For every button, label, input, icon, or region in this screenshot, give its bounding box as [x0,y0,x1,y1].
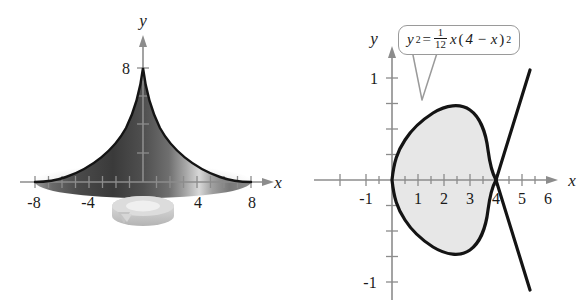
right-xtick-label-2: 2 [440,190,448,207]
figure-container: x y -8 -4 4 8 8 [0,0,588,304]
left-xtick-label-4: 4 [194,194,202,211]
equation-callout: y2 = 1 12 x(4 − x)2 [398,25,520,55]
left-panel-solid-of-revolution: x y -8 -4 4 8 8 [0,0,294,304]
right-xtick-label-6: 6 [544,190,552,207]
eq-paren-open: ( [459,32,464,47]
eq-fraction: 1 12 [434,27,447,50]
left-xtick-label-neg8: -8 [27,194,40,211]
left-x-axis-label: x [273,173,282,192]
right-xtick-label-5: 5 [518,190,526,207]
right-curve-upper-branch [496,70,530,180]
right-xtick-label-3: 3 [466,190,474,207]
left-y-axis-arrow [139,35,147,47]
right-ytick-label-1: 1 [370,70,378,87]
left-plot-svg: x y -8 -4 4 8 8 [0,0,294,304]
eq-equals: = [423,32,431,47]
left-xtick-label-8: 8 [248,194,256,211]
eq-factor-x: x [450,32,457,47]
right-xtick-label-1: 1 [414,190,422,207]
right-ytick-label-neg1: -1 [363,274,376,291]
right-y-axis-arrow [388,46,396,58]
rotation-arrow-icon [112,196,174,226]
right-xtick-label-neg1: -1 [359,190,372,207]
eq-paren-inner: 4 − x [466,32,498,47]
right-y-axis-label: y [368,29,378,48]
left-y-axis-label: y [137,11,147,30]
right-x-axis-label: x [567,171,576,190]
right-panel-loop-region: x y -1 1 2 3 4 5 6 1 -1 y2 = 1 12 x(4 − [294,0,588,304]
eq-fraction-denominator: 12 [434,38,447,50]
callout-pointer-tail [412,50,438,100]
right-xtick-label-4: 4 [492,190,500,207]
left-xtick-label-neg4: -4 [81,194,94,211]
left-ytick-label-8: 8 [122,60,130,77]
left-x-axis-arrow [262,178,274,186]
right-x-axis-arrow [546,176,558,184]
eq-lhs-base: y [407,32,414,47]
eq-fraction-numerator: 1 [437,27,444,38]
eq-paren-close: ) [499,32,504,47]
equation-text: y2 = 1 12 x(4 − x)2 [407,28,511,51]
